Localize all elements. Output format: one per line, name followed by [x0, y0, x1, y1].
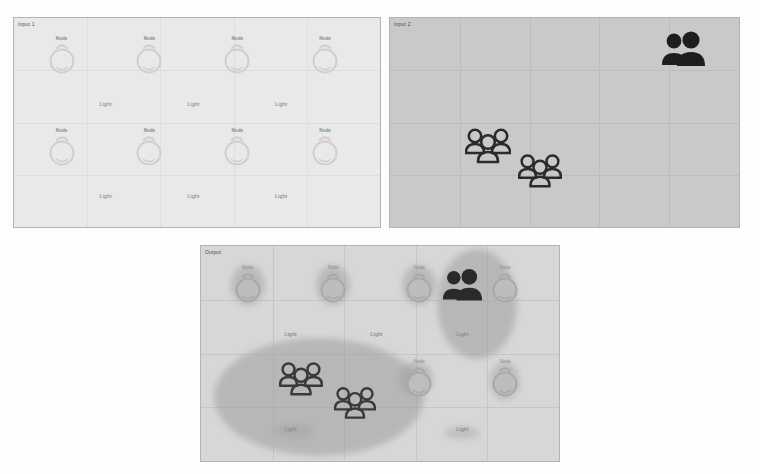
graph-node-label: Node	[144, 128, 155, 133]
edge-label: Light	[284, 331, 296, 337]
graph-node-label: Node	[56, 128, 67, 133]
edge-label: Light	[99, 101, 111, 107]
two-people-icon[interactable]	[660, 31, 706, 71]
graph-node-label: Node	[232, 36, 243, 41]
graph-node-label: Node	[414, 265, 425, 270]
graph-node-label: Node	[242, 265, 253, 270]
bulb-icon	[132, 134, 166, 168]
bulb-icon	[45, 134, 79, 168]
bulb-icon	[402, 271, 436, 305]
graph-node-label: Node	[56, 36, 67, 41]
graph-node-label: Node	[414, 359, 425, 364]
two-people-icon[interactable]	[441, 268, 483, 305]
bulb-icon	[308, 134, 342, 168]
graph-node[interactable]: Node	[231, 265, 265, 305]
graph-node[interactable]: Node	[316, 265, 350, 305]
bulb-icon	[316, 271, 350, 305]
edge-label: Light	[187, 193, 199, 199]
group-people-icon[interactable]	[334, 385, 376, 426]
edge-label: Light	[187, 101, 199, 107]
graph-node-label: Node	[319, 128, 330, 133]
panel-3-label: Output	[205, 249, 221, 255]
graph-node-label: Node	[500, 359, 511, 364]
graph-node[interactable]: Node	[488, 359, 522, 399]
group-people-icon[interactable]	[518, 152, 562, 194]
panel-output: Node Node Node Node Node Node LightLight…	[200, 245, 560, 462]
bulb-icon	[402, 365, 436, 399]
graph-node-label: Node	[319, 36, 330, 41]
graph-node[interactable]: Node	[308, 36, 342, 76]
edge-label: Light	[456, 331, 468, 337]
edge-label: Light	[456, 426, 468, 432]
panel-input-1: Node Node Node Node Node Node Node Node …	[13, 17, 381, 228]
edge-label: Light	[275, 193, 287, 199]
graph-node[interactable]: Node	[402, 359, 436, 399]
graph-node[interactable]: Node	[488, 265, 522, 305]
panel-2-content	[390, 18, 739, 227]
bulb-icon	[132, 42, 166, 76]
graph-node[interactable]: Node	[402, 265, 436, 305]
bulb-icon	[220, 134, 254, 168]
graph-node-label: Node	[500, 265, 511, 270]
panel-3-content: Node Node Node Node Node Node LightLight…	[201, 246, 559, 461]
panel-1-label: Input 1	[18, 21, 35, 27]
panel-1-content: Node Node Node Node Node Node Node Node …	[14, 18, 380, 227]
graph-node[interactable]: Node	[45, 128, 79, 168]
graph-node[interactable]: Node	[220, 36, 254, 76]
bulb-icon	[308, 42, 342, 76]
graph-node[interactable]: Node	[45, 36, 79, 76]
panel-2-label: Input 2	[394, 21, 411, 27]
edge-label: Light	[370, 331, 382, 337]
group-people-icon[interactable]	[465, 126, 511, 170]
bulb-icon	[488, 271, 522, 305]
edge-label: Light	[275, 101, 287, 107]
bulb-icon	[488, 365, 522, 399]
graph-node[interactable]: Node	[132, 128, 166, 168]
graph-node-label: Node	[328, 265, 339, 270]
bulb-icon	[220, 42, 254, 76]
graph-node[interactable]: Node	[220, 128, 254, 168]
panel-input-2: Input 2	[389, 17, 740, 228]
graph-node[interactable]: Node	[132, 36, 166, 76]
graph-node[interactable]: Node	[308, 128, 342, 168]
graph-node-label: Node	[144, 36, 155, 41]
bulb-icon	[231, 271, 265, 305]
bulb-icon	[45, 42, 79, 76]
graph-node-label: Node	[232, 128, 243, 133]
edge-label: Light	[284, 426, 296, 432]
figure-canvas: Node Node Node Node Node Node Node Node …	[0, 0, 760, 474]
group-people-icon[interactable]	[279, 360, 323, 402]
edge-label: Light	[99, 193, 111, 199]
